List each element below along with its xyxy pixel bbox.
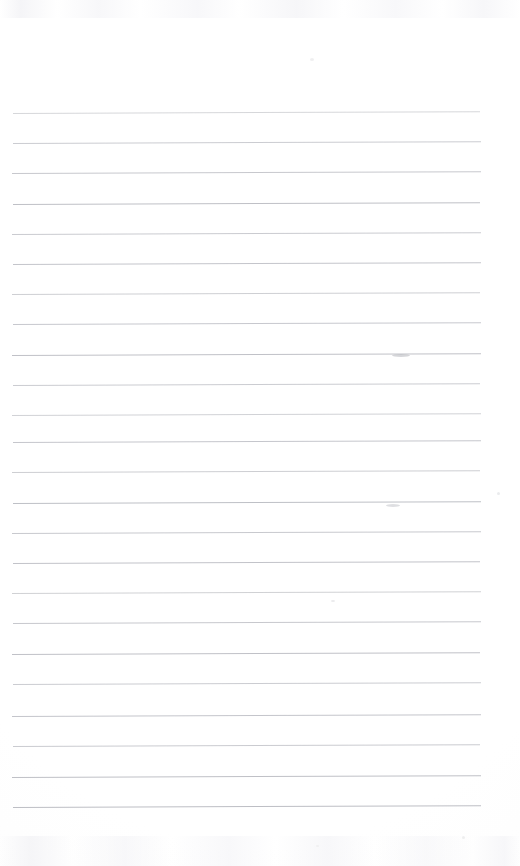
rule-line — [12, 531, 481, 534]
rule-line — [13, 805, 481, 808]
scanned-page — [0, 0, 520, 866]
rule-line — [12, 775, 481, 778]
rule-line — [13, 141, 481, 144]
rule-line — [13, 440, 481, 443]
rule-line — [13, 682, 481, 685]
rule-line — [13, 111, 480, 114]
ruled-writing-area — [0, 0, 520, 866]
rule-line — [12, 413, 481, 416]
rule-line — [13, 501, 481, 504]
rule-line — [12, 292, 480, 295]
rule-line — [13, 621, 481, 624]
rule-line — [13, 262, 481, 265]
rule-line — [13, 561, 480, 564]
rule-line — [13, 383, 480, 386]
rule-line — [12, 232, 481, 235]
rule-line — [12, 591, 481, 594]
rule-line — [12, 171, 481, 174]
rule-line — [12, 353, 481, 356]
rule-line — [13, 744, 480, 747]
rule-line — [13, 202, 480, 205]
rule-line — [12, 714, 481, 717]
rule-line — [12, 652, 480, 655]
rule-line — [13, 322, 481, 325]
rule-line — [12, 470, 480, 473]
